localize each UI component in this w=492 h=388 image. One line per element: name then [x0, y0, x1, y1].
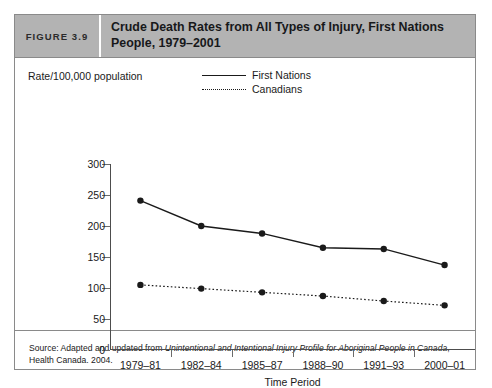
x-tick-label: 1979–81 — [120, 359, 161, 371]
data-point — [198, 223, 204, 229]
data-point — [320, 245, 326, 251]
x-tick-label: 1982–84 — [181, 359, 222, 371]
y-tick-label: 300 — [87, 158, 105, 170]
legend-label: Canadians — [252, 83, 302, 95]
legend-label: First Nations — [252, 69, 311, 81]
chart-legend: First Nations Canadians — [202, 68, 311, 96]
legend-dotted-line-icon — [202, 84, 246, 94]
x-tick-mark — [414, 350, 415, 357]
chart-area: Rate/100,000 population First Nations Ca… — [15, 58, 475, 330]
y-tick-label: 50 — [93, 313, 105, 325]
x-tick-label: 1985–87 — [242, 359, 283, 371]
y-tick-label: 0 — [99, 344, 105, 356]
y-axis-title: Rate/100,000 population — [28, 70, 142, 82]
y-tick-label: 200 — [87, 220, 105, 232]
x-tick-mark — [232, 350, 233, 357]
legend-item-first-nations: First Nations — [202, 68, 311, 82]
data-series-layer — [110, 164, 475, 350]
x-tick-mark — [353, 350, 354, 357]
x-tick-mark — [171, 350, 172, 357]
series-line-canadians — [140, 285, 444, 305]
data-point — [259, 230, 265, 236]
data-point — [198, 285, 204, 291]
x-axis-title: Time Period — [110, 376, 475, 388]
figure-card: FIGURE 3.9 Crude Death Rates from All Ty… — [14, 14, 476, 370]
y-tick-label: 250 — [87, 189, 105, 201]
figure-number: FIGURE 3.9 — [15, 15, 101, 57]
y-tick-label: 100 — [87, 282, 105, 294]
plot-region: 050100150200250300 1979–811982–841985–87… — [110, 164, 475, 350]
data-point — [259, 289, 265, 295]
x-tick-label: 2000–01 — [424, 359, 465, 371]
x-tick-label: 1991–93 — [363, 359, 404, 371]
series-line-first-nations — [140, 201, 444, 265]
data-point — [320, 293, 326, 299]
legend-item-canadians: Canadians — [202, 82, 311, 96]
legend-solid-line-icon — [202, 70, 246, 80]
data-point — [137, 197, 143, 203]
data-point — [381, 246, 387, 252]
data-point — [441, 262, 447, 268]
figure-title: Crude Death Rates from All Types of Inju… — [101, 15, 475, 57]
data-point — [137, 282, 143, 288]
figure-header: FIGURE 3.9 Crude Death Rates from All Ty… — [15, 15, 475, 58]
y-tick-label: 150 — [87, 251, 105, 263]
x-tick-mark — [293, 350, 294, 357]
data-point — [441, 302, 447, 308]
data-point — [381, 298, 387, 304]
x-tick-label: 1988–90 — [302, 359, 343, 371]
